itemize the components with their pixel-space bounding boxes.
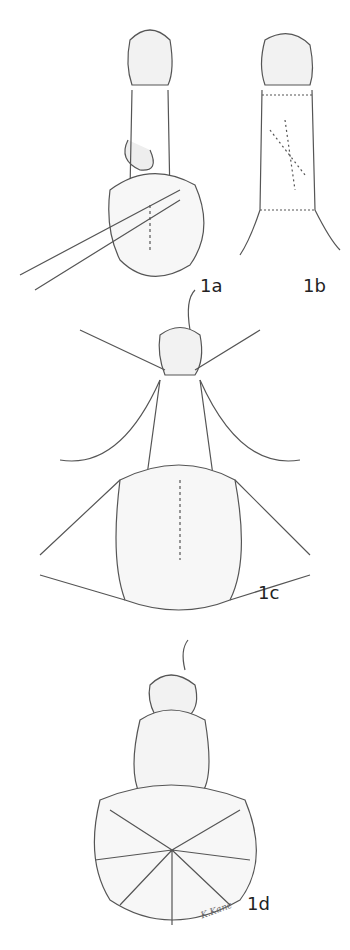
panel-1a-drawing xyxy=(20,30,204,290)
panel-label-1b: 1b xyxy=(303,275,326,296)
panel-1c-drawing xyxy=(40,290,310,610)
surgical-illustration xyxy=(0,0,350,950)
panel-1b-drawing xyxy=(240,34,340,255)
panel-1d-drawing xyxy=(94,640,256,925)
panel-label-1a: 1a xyxy=(200,275,222,296)
panel-label-1d: 1d xyxy=(247,893,270,914)
panel-label-1c: 1c xyxy=(258,582,279,603)
